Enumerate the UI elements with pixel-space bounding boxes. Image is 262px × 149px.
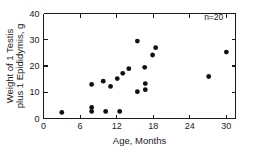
data-point-4 [101,79,106,84]
data-point-1 [89,82,94,87]
data-point-11 [135,39,140,44]
axis-titles-group: Age, MonthsWeight of 1 Testisplus 1 Epid… [4,24,166,146]
data-point-5 [103,109,108,114]
ticks-group [44,14,236,119]
data-point-18 [206,74,211,79]
y-tick-label-30: 30 [29,35,39,45]
plot-canvas: 0612182430010203040 n=20 Age, MonthsWeig… [0,0,262,149]
data-point-3 [89,109,94,114]
x-axis-title: Age, Months [113,135,167,146]
data-point-9 [120,71,125,76]
data-point-19 [224,50,229,55]
y-tick-label-10: 10 [29,87,39,97]
axis-frame-top-right [44,14,236,119]
data-point-14 [143,81,148,86]
data-point-15 [143,87,148,92]
x-tick-label-18: 18 [148,121,158,131]
data-point-7 [115,76,120,81]
axes-group [44,14,236,119]
y-axis-title-line2: plus 1 Epididymis, g [14,24,25,108]
y-tick-label-40: 40 [29,9,39,19]
x-tick-label-30: 30 [221,121,231,131]
scatter-plot-figure: 0612182430010203040 n=20 Age, MonthsWeig… [0,0,262,149]
data-points-group [59,39,228,115]
data-point-0 [59,110,64,115]
data-point-16 [150,53,155,58]
annotation-0: n=20 [204,12,223,22]
y-tick-label-0: 0 [34,114,39,124]
x-tick-label-6: 6 [78,121,83,131]
annotation-group: n=20 [204,12,223,22]
data-point-8 [117,109,122,114]
y-tick-label-20: 20 [29,61,39,71]
data-point-10 [126,66,131,71]
data-point-13 [142,65,147,70]
axis-frame-left-bottom [44,14,236,119]
data-point-12 [135,89,140,94]
data-point-17 [153,45,158,50]
x-tick-label-24: 24 [185,121,195,131]
x-tick-label-12: 12 [112,121,122,131]
data-point-6 [108,84,113,89]
x-tick-label-0: 0 [41,121,46,131]
